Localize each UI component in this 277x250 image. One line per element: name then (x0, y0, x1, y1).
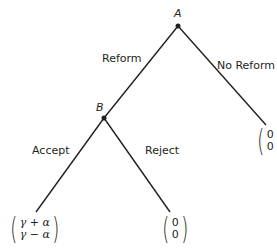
left-paren-icon: ( (10, 214, 17, 244)
payoff-reject: ( 0 0 ) (160, 214, 190, 244)
payoff-accept-player-b: γ − α (20, 229, 50, 241)
node-a-label: A (174, 7, 182, 20)
node-a-dot (176, 24, 181, 29)
edge-label-reject: Reject (145, 144, 179, 157)
payoff-accept: ( γ + α γ − α ) (8, 214, 62, 244)
payoff-no-reform-player-b: 0 (267, 141, 274, 153)
edge-label-no-reform: No Reform (217, 59, 275, 72)
right-paren-icon: ) (52, 214, 59, 244)
payoff-reject-player-b: 0 (172, 229, 179, 241)
game-tree-lines (0, 0, 277, 250)
node-b-label: B (96, 101, 104, 114)
node-b-dot (102, 116, 107, 121)
payoff-no-reform: ( 0 0 ) (255, 126, 277, 156)
left-paren-icon: ( (162, 214, 169, 244)
left-paren-icon: ( (257, 126, 264, 156)
edge-label-reform: Reform (102, 52, 142, 65)
edge-label-accept: Accept (32, 144, 70, 157)
right-paren-icon: ) (276, 126, 277, 156)
edge-reform (104, 26, 178, 118)
edge-accept (36, 118, 104, 212)
right-paren-icon: ) (181, 214, 188, 244)
edge-no-reform (178, 26, 266, 125)
edge-reject (104, 118, 170, 212)
